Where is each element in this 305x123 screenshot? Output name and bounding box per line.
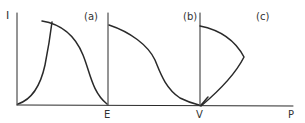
x-label-e: E	[104, 110, 110, 120]
curve-b-falling	[109, 25, 199, 105]
x-label-v: V	[196, 110, 203, 120]
panel-a-label: (a)	[84, 12, 98, 22]
curve-a-rising	[18, 22, 52, 104]
x-axis	[17, 105, 293, 106]
panel-b-label: (b)	[183, 12, 197, 22]
panel-c-label: (c)	[256, 12, 269, 22]
curve-c-loop	[200, 26, 244, 106]
curve-a-falling	[42, 21, 107, 104]
y-axis-label: I	[6, 10, 9, 21]
x-axis-label: P	[288, 110, 294, 120]
